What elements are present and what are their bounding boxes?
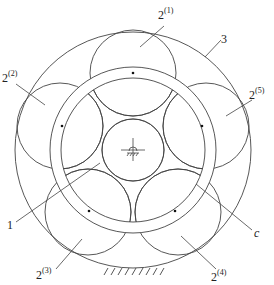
label-sun-1: 1 (7, 219, 13, 231)
label-ring-3: 3 (221, 33, 227, 45)
diagram-drawing (0, 0, 274, 285)
planetary-gear-diagram: 2(1) 3 2(2) 2(5) 1 c 2(3) 2(4) (0, 0, 274, 285)
ground-hatch-icon (104, 268, 164, 275)
label-planet-4: 2(4) (211, 271, 226, 283)
label-planet-5: 2(5) (249, 89, 264, 101)
label-carrier-c: c (254, 227, 259, 239)
label-planet-2: 2(2) (2, 72, 17, 84)
center-support-icon (121, 138, 145, 161)
label-planet-3: 2(3) (36, 269, 51, 281)
label-planet-1: 2(1) (158, 9, 173, 21)
